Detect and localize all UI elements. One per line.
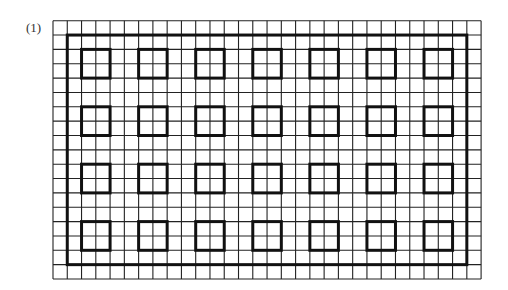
grid-lines xyxy=(53,21,481,279)
grid-diagram xyxy=(0,0,508,290)
